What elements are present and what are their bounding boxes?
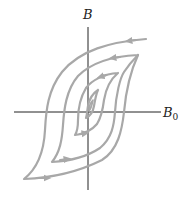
hysteresis-loop-third <box>75 73 118 135</box>
arrow-second-top <box>112 57 120 58</box>
hysteresis-loop-outer <box>24 39 146 179</box>
diagram-svg <box>0 0 186 199</box>
vertical-axis-label: B <box>83 8 93 21</box>
horizontal-axis-label: B0 <box>163 106 178 122</box>
arrow-third-top <box>100 75 106 77</box>
arrow-outer-top <box>128 40 136 41</box>
arrow-third-bottom <box>80 133 86 134</box>
hysteresis-diagram: B B0 <box>0 0 186 199</box>
arrow-second-bottom <box>60 159 68 160</box>
